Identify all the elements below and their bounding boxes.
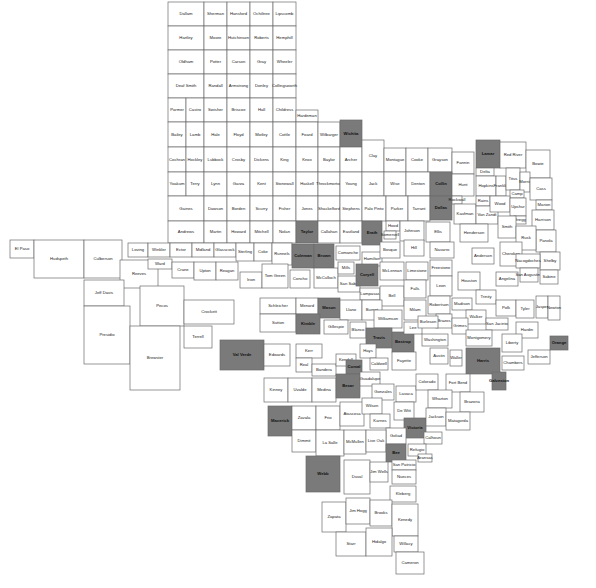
county-king: King bbox=[273, 147, 296, 172]
county-archer: Archer bbox=[340, 147, 362, 172]
county-label: Burleson bbox=[420, 319, 437, 324]
county-label: Howard bbox=[231, 229, 246, 234]
county-gonzales: Gonzales bbox=[372, 384, 394, 400]
county-zavala: Zavala bbox=[292, 406, 316, 430]
county-label: Ellis bbox=[434, 229, 442, 234]
county-erath: Erath bbox=[362, 221, 382, 245]
county-llano: Llano bbox=[340, 300, 362, 320]
county-label: Brooks bbox=[374, 510, 387, 515]
county-label: Foard bbox=[302, 132, 314, 137]
county-ector: Ector bbox=[170, 243, 192, 257]
county-mclennan: McLennan bbox=[380, 262, 404, 280]
county-cottle: Cottle bbox=[273, 122, 296, 147]
county-young: Young bbox=[340, 172, 362, 196]
county-tom-green: Tom Green bbox=[262, 264, 288, 288]
county-label: Scurry bbox=[255, 206, 268, 211]
county-san-patricio: San Patricio bbox=[392, 460, 416, 470]
county-label: Jim Wells bbox=[370, 469, 388, 474]
county-label: Williamson bbox=[378, 316, 399, 321]
county-label: Caldwell bbox=[371, 361, 387, 366]
county-webb: Webb bbox=[306, 456, 340, 492]
county-label: De Witt bbox=[397, 408, 412, 413]
county-real: Real bbox=[296, 358, 312, 372]
county-label: Reagan bbox=[220, 268, 235, 273]
county-jackson: Jackson bbox=[426, 408, 446, 426]
county-label: San Patricio bbox=[393, 462, 416, 467]
county-briscoe: Briscoe bbox=[227, 98, 250, 122]
county-label: Collin bbox=[435, 181, 447, 186]
county-label: Freestone bbox=[432, 265, 452, 270]
county-label: Milam bbox=[409, 307, 421, 312]
county-label: Cameron bbox=[401, 560, 419, 565]
county-label: Nolan bbox=[279, 229, 291, 234]
county-label: Wharton bbox=[432, 396, 448, 401]
county-sabine: Sabine bbox=[540, 270, 558, 284]
county-label: Live Oak bbox=[368, 438, 385, 443]
county-hill: Hill bbox=[404, 240, 424, 256]
county-label: Wichita bbox=[344, 131, 360, 136]
county-bandera: Bandera bbox=[312, 364, 336, 376]
county-label: Hays bbox=[363, 348, 373, 353]
county-label: Kinney bbox=[270, 387, 284, 392]
county-label: Coke bbox=[258, 249, 268, 254]
county-label: Sabine bbox=[542, 274, 556, 279]
county-kleberg: Kleberg bbox=[390, 486, 416, 502]
county-irion: Irion bbox=[240, 272, 262, 288]
county-label: Llano bbox=[346, 307, 357, 312]
county-motley: Motley bbox=[250, 122, 273, 147]
county-label: Cottle bbox=[279, 132, 291, 137]
county-henderson: Henderson bbox=[460, 224, 488, 242]
county-palo-pinto: Palo Pinto bbox=[362, 196, 386, 221]
county-williamson: Williamson bbox=[374, 310, 402, 328]
county-gray: Gray bbox=[250, 50, 273, 74]
county-borden: Borden bbox=[227, 196, 250, 221]
county-label: Ochiltree bbox=[253, 11, 270, 16]
county-label: Atascosa bbox=[343, 411, 361, 416]
county-lynn: Lynn bbox=[204, 172, 227, 196]
county-jones: Jones bbox=[296, 196, 318, 221]
county-marion: Marion bbox=[536, 200, 552, 210]
county-label: Lee bbox=[410, 325, 418, 330]
county-grimes: Grimes bbox=[452, 318, 468, 334]
county-duval: Duval bbox=[344, 460, 370, 494]
county-johnson: Johnson bbox=[400, 221, 424, 241]
county-nueces: Nueces bbox=[392, 470, 416, 484]
county-label: Fisher bbox=[279, 206, 291, 211]
county-upton: Upton bbox=[194, 262, 216, 280]
county-label: Angelina bbox=[499, 276, 516, 281]
county-label: McMullen bbox=[346, 439, 365, 444]
county-label: Knox bbox=[302, 157, 312, 162]
county-label: Brown bbox=[317, 253, 330, 258]
county-bastrop: Bastrop bbox=[392, 332, 414, 352]
county-label: Cochran bbox=[169, 157, 185, 162]
county-label: Red River bbox=[504, 152, 523, 157]
county-armstrong: Armstrong bbox=[227, 74, 250, 98]
county-swisher: Swisher bbox=[204, 98, 227, 122]
county-label: Lynn bbox=[211, 181, 221, 186]
county-label: Tyler bbox=[520, 306, 530, 311]
county-red-river: Red River bbox=[500, 142, 526, 168]
county-ward: Ward bbox=[148, 259, 172, 269]
county-label: Lamb bbox=[190, 132, 201, 137]
county-titus: Titus bbox=[506, 168, 520, 190]
county-label: Starr bbox=[346, 541, 356, 546]
county-lampasas: Lampasas bbox=[360, 288, 380, 300]
county-goliad: Goliad bbox=[386, 428, 406, 444]
county-label: Taylor bbox=[301, 229, 314, 234]
county-label: Newton bbox=[547, 305, 562, 310]
county-wilson: Wilson bbox=[362, 398, 382, 414]
county-knox: Knox bbox=[296, 147, 318, 172]
county-label: Fannin bbox=[457, 160, 470, 165]
county-floyd: Floyd bbox=[227, 122, 250, 147]
county-label: Midland bbox=[196, 247, 211, 252]
county-label: Nueces bbox=[397, 474, 411, 479]
county-el-paso: El Paso bbox=[10, 240, 34, 258]
county-label: Gray bbox=[257, 59, 267, 64]
county-kaufman: Kaufman bbox=[454, 204, 476, 224]
county-childress: Childress bbox=[273, 98, 296, 122]
county-cooke: Cooke bbox=[406, 148, 428, 172]
county-austin: Austin bbox=[430, 348, 448, 364]
county-smith: Smith bbox=[498, 216, 516, 238]
county-label: Lipscomb bbox=[276, 11, 295, 16]
county-limestone: Limestone bbox=[406, 262, 428, 280]
